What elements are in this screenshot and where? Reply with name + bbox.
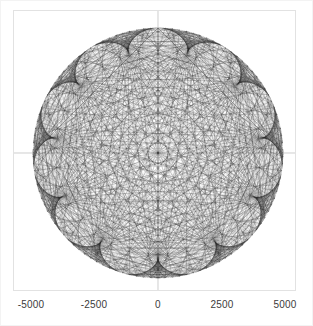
x-tick-label: 0 — [155, 298, 161, 311]
x-tick-label: 5000 — [273, 298, 296, 311]
x-tick-label: -2500 — [81, 298, 108, 311]
x-tick-label: 2500 — [210, 298, 233, 311]
chord-lines — [33, 28, 283, 278]
plot-drawing-area — [13, 10, 296, 291]
x-axis-tick-labels: -5000-2500025005000 — [0, 298, 313, 316]
x-tick-label: -5000 — [18, 298, 45, 311]
chord-diagram — [13, 10, 296, 291]
figure-canvas: -5000-2500025005000 — [0, 0, 313, 326]
